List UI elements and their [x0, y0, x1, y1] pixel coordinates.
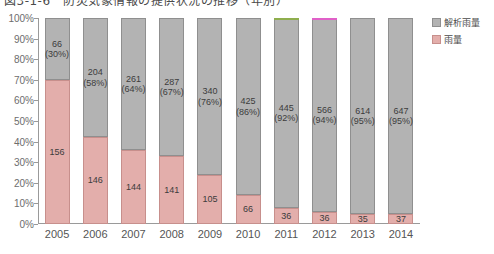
y-axis-tick-label: 40%: [14, 136, 34, 147]
legend-item-pink: 雨量: [432, 33, 490, 46]
chart-container: 図3-1-6 防災気象情報の提供状況の推移（年別） 0%10%20%30%40%…: [0, 0, 494, 254]
bar-label-gray: 647(95%): [389, 106, 413, 127]
bar-stack[interactable]: 261(64%)144: [121, 18, 146, 224]
x-axis-tick-label: 2012: [305, 228, 343, 240]
bar-segment-pink[interactable]: 35: [350, 214, 375, 224]
chart-legend: 解析雨量 雨量: [432, 16, 490, 50]
y-axis-tick-label: 10%: [14, 198, 34, 209]
x-axis-tick-label: 2006: [76, 228, 114, 240]
bar-label-gray: 614(95%): [351, 106, 375, 127]
bar-label-pink: 36: [281, 211, 291, 221]
bar-stack[interactable]: 340(76%)105: [197, 18, 222, 224]
y-axis-tick-label: 60%: [14, 95, 34, 106]
y-axis-line: [38, 18, 39, 224]
bar-stack[interactable]: 287(67%)141: [159, 18, 184, 224]
y-axis-tick: [34, 39, 38, 40]
bar-label-pink: 35: [358, 214, 368, 224]
x-axis-tick-label: 2013: [344, 228, 382, 240]
bar-label-gray: 425(86%): [236, 96, 260, 117]
bar-label-pink: 36: [319, 213, 329, 223]
bar-label-pink: 141: [164, 185, 179, 195]
bar-segment-gray[interactable]: 647(95%): [388, 18, 413, 214]
y-axis-tick: [34, 59, 38, 60]
bar-segment-pink[interactable]: 144: [121, 150, 146, 224]
bar-segment-gray[interactable]: 566(94%): [312, 18, 337, 212]
bar-segment-gray[interactable]: 614(95%): [350, 18, 375, 214]
legend-swatch-icon-gray: [432, 18, 441, 27]
legend-label-pink: 雨量: [444, 33, 462, 46]
bar-stack[interactable]: 425(86%)66: [236, 18, 261, 224]
bar-segment-pink[interactable]: 156: [45, 80, 70, 224]
bar-label-pink: 144: [126, 182, 141, 192]
y-axis-tick-label: 90%: [14, 33, 34, 44]
y-axis-tick: [34, 121, 38, 122]
bar-segment-pink[interactable]: 37: [388, 214, 413, 224]
legend-label-gray: 解析雨量: [444, 16, 480, 29]
bar-segment-pink[interactable]: 105: [197, 175, 222, 224]
bar-label-pink: 156: [50, 147, 65, 157]
bar-label-pink: 105: [202, 194, 217, 204]
bar-label-gray: 340(76%): [198, 86, 222, 107]
bar-segment-pink[interactable]: 146: [83, 137, 108, 224]
bar-segment-pink[interactable]: 141: [159, 156, 184, 224]
y-axis-tick-label: 80%: [14, 54, 34, 65]
bar-label-gray: 204(58%): [83, 67, 107, 88]
bar-label-pink: 66: [243, 204, 253, 214]
bar-stack[interactable]: 204(58%)146: [83, 18, 108, 224]
chart-title-strip: 図3-1-6 防災気象情報の提供状況の推移（年別）: [0, 0, 494, 11]
bar-segment-gray[interactable]: 340(76%): [197, 18, 222, 175]
plot-area: 66(30%)156204(58%)146261(64%)144287(67%)…: [38, 18, 420, 224]
y-axis-tick: [34, 183, 38, 184]
x-axis-tick-label: 2005: [38, 228, 76, 240]
x-axis-tick-label: 2009: [191, 228, 229, 240]
y-axis-tick-label: 50%: [14, 116, 34, 127]
bar-label-gray: 261(64%): [122, 74, 146, 95]
y-axis-labels: 0%10%20%30%40%50%60%70%80%90%100%: [0, 18, 34, 224]
bar-stack[interactable]: 566(94%)36: [312, 18, 337, 224]
page-title: 図3-1-6 防災気象情報の提供状況の推移（年別）: [4, 0, 288, 8]
bar-stack[interactable]: 647(95%)37: [388, 18, 413, 224]
bar-segment-gray[interactable]: 287(67%): [159, 18, 184, 156]
bar-label-pink: 37: [396, 214, 406, 224]
y-axis-tick: [34, 224, 38, 225]
bar-segment-gray[interactable]: 261(64%): [121, 18, 146, 150]
bar-segment-gray[interactable]: 66(30%): [45, 18, 70, 80]
x-axis-tick-label: 2011: [267, 228, 305, 240]
bar-label-pink: 146: [88, 175, 103, 185]
y-axis-tick-label: 0%: [20, 219, 34, 230]
legend-item-gray: 解析雨量: [432, 16, 490, 29]
bar-stack[interactable]: 66(30%)156: [45, 18, 70, 224]
bar-segment-gray[interactable]: 445(92%): [274, 18, 299, 208]
y-axis-tick-label: 70%: [14, 74, 34, 85]
bar-segment-gray[interactable]: 425(86%): [236, 18, 261, 195]
bar-label-gray: 566(94%): [313, 105, 337, 126]
y-axis-tick: [34, 100, 38, 101]
y-axis-tick: [34, 142, 38, 143]
bar-stack[interactable]: 445(92%)36: [274, 18, 299, 224]
bar-label-gray: 66(30%): [45, 39, 69, 60]
y-axis-tick: [34, 80, 38, 81]
bar-label-gray: 445(92%): [274, 103, 298, 124]
scan-artifact-stripe: [312, 18, 337, 20]
x-axis-labels: 2005200620072008200920102011201220132014: [38, 228, 420, 244]
y-axis-tick: [34, 162, 38, 163]
x-axis-tick-label: 2008: [153, 228, 191, 240]
y-axis-tick: [34, 203, 38, 204]
y-axis-tick: [34, 18, 38, 19]
x-axis-tick-label: 2007: [114, 228, 152, 240]
bar-segment-pink[interactable]: 66: [236, 195, 261, 224]
legend-swatch-icon-pink: [432, 35, 441, 44]
y-axis-tick-label: 30%: [14, 157, 34, 168]
bar-stack[interactable]: 614(95%)35: [350, 18, 375, 224]
bar-segment-gray[interactable]: 204(58%): [83, 18, 108, 137]
x-axis-tick-label: 2010: [229, 228, 267, 240]
y-axis-tick-label: 100%: [8, 13, 34, 24]
y-axis-tick-label: 20%: [14, 177, 34, 188]
scan-artifact-stripe: [274, 18, 299, 20]
x-axis-tick-label: 2014: [382, 228, 420, 240]
bar-segment-pink[interactable]: 36: [274, 208, 299, 224]
bar-label-gray: 287(67%): [160, 77, 184, 98]
bar-segment-pink[interactable]: 36: [312, 212, 337, 224]
